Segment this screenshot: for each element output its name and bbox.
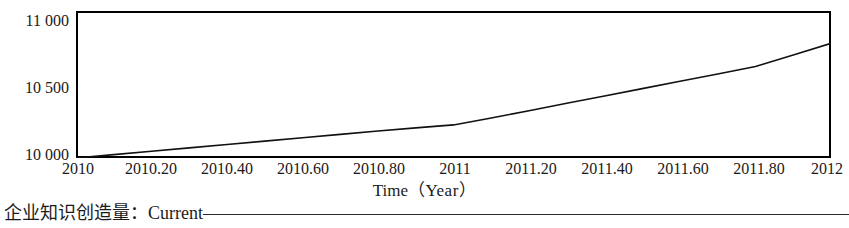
series-line-current (76, 43, 831, 158)
x-tick-label-2011-80: 2011.80 (733, 160, 784, 178)
x-tick-label-2010-60: 2010.60 (277, 160, 329, 178)
x-tick-label-2011-40: 2011.40 (581, 160, 632, 178)
y-tick-label-11000: 11 000 (26, 13, 69, 29)
x-tick-label-2010-80: 2010.80 (353, 160, 405, 178)
x-tick-label-2011-60: 2011.60 (657, 160, 708, 178)
y-tick-label-10500: 10 500 (25, 80, 69, 96)
x-tick-label-2011: 2011 (439, 160, 470, 178)
plot-series-canvas (76, 11, 831, 158)
x-axis-title: Time（Year） (0, 181, 849, 200)
x-tick-label-2011-20: 2011.20 (505, 160, 556, 178)
x-tick-label-2010-40: 2010.40 (201, 160, 253, 178)
x-tick-label-2010: 2010 (62, 160, 94, 178)
legend-line-swatch (203, 214, 849, 215)
x-tick-label-2012: 2012 (811, 160, 843, 178)
x-tick-label-2010-20: 2010.20 (125, 160, 177, 178)
legend-run-name: Current (148, 203, 203, 223)
legend: 企业知识创造量：Current (4, 199, 849, 227)
chart-container: 11 000 10 500 10 000 2010 2010.20 2010.4… (0, 0, 849, 228)
legend-entry-label: 企业知识创造量：Current (4, 202, 203, 224)
x-axis-tick-labels: 2010 2010.20 2010.40 2010.60 2010.80 201… (0, 160, 849, 182)
x-axis-title-main: Time (373, 181, 408, 200)
x-axis-title-unit: （Year） (408, 181, 476, 200)
legend-variable-name: 企业知识创造量： (4, 202, 148, 223)
